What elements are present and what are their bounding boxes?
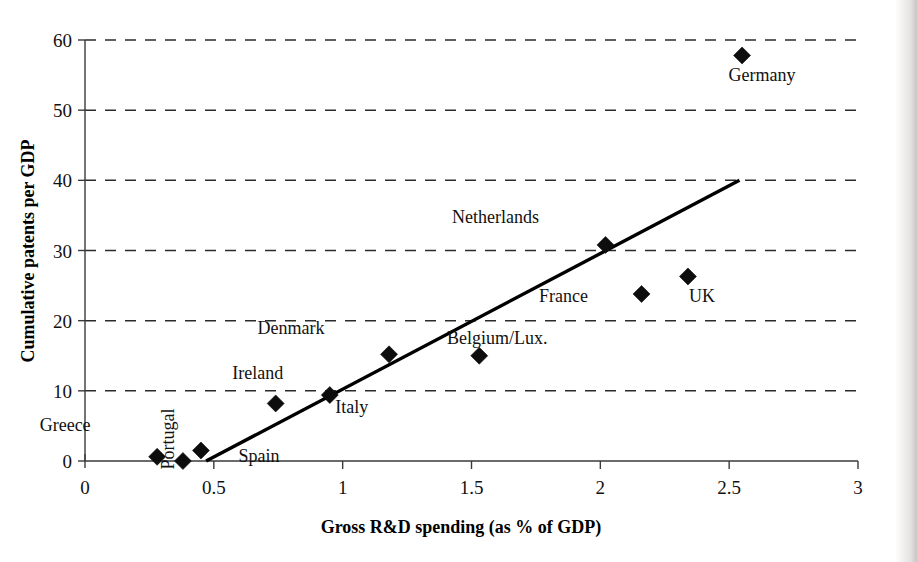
data-point-label-greece: Greece: [40, 415, 91, 435]
data-point-marker-uk: [679, 268, 696, 285]
x-tick-label-1.5: 1.5: [460, 477, 484, 498]
x-axis-title: Gross R&D spending (as % of GDP): [321, 517, 602, 538]
data-point-label-denmark: Denmark: [258, 318, 325, 338]
data-point-label-france: France: [539, 286, 588, 306]
data-point-marker-germany: [734, 47, 751, 64]
y-tick-label-30: 30: [53, 241, 72, 262]
x-tick-label-2: 2: [596, 477, 606, 498]
y-tick-label-0: 0: [63, 451, 73, 472]
data-point-marker-belgium-lux: [471, 347, 488, 364]
data-point-label-uk: UK: [689, 286, 715, 306]
y-tick-label-40: 40: [53, 170, 72, 191]
chart-figure: 0102030405060 00.511.522.53 GreecePortug…: [0, 0, 917, 562]
data-point-label-spain: Spain: [238, 446, 279, 466]
x-tick-label-3: 3: [853, 477, 863, 498]
data-point-marker-ireland: [267, 395, 284, 412]
data-point-marker-france: [633, 286, 650, 303]
y-tick-label-20: 20: [53, 311, 72, 332]
data-point-marker-spain: [192, 442, 209, 459]
data-point-label-belgium-lux: Belgium/Lux.: [447, 328, 548, 348]
data-point-label-portugal: Portugal: [158, 409, 178, 470]
x-tick-label-1: 1: [338, 477, 348, 498]
y-tick-label-60: 60: [53, 30, 72, 51]
scatter-plot: 0102030405060 00.511.522.53 GreecePortug…: [0, 0, 917, 562]
data-point-label-italy: Italy: [335, 397, 368, 417]
data-point-label-ireland: Ireland: [232, 363, 283, 383]
y-tick-label-50: 50: [53, 100, 72, 121]
y-tick-label-10: 10: [53, 381, 72, 402]
y-axis-ticks: 0102030405060: [53, 30, 85, 472]
x-tick-label-0.5: 0.5: [202, 477, 226, 498]
data-point-label-germany: Germany: [729, 65, 796, 85]
x-tick-label-0: 0: [80, 477, 90, 498]
data-point-label-netherlands: Netherlands: [452, 207, 539, 227]
x-tick-label-2.5: 2.5: [717, 477, 741, 498]
y-axis-title: Cumulative patents per GDP: [18, 139, 38, 362]
